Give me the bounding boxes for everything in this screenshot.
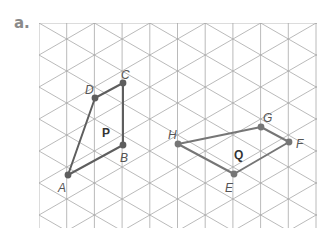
vertex-label-g: G xyxy=(263,111,272,125)
vertex-point-f xyxy=(286,139,293,146)
grid-diagonal-line xyxy=(39,22,317,183)
quadrilateral-q: EFGHQ xyxy=(168,111,304,195)
grid-diagonal-line xyxy=(39,214,317,228)
vertex-label-a: A xyxy=(57,181,66,195)
vertex-label-d: D xyxy=(85,83,94,97)
vertex-point-a xyxy=(65,172,72,179)
grid-diagonal-line xyxy=(39,0,317,151)
isometric-grid-canvas: ABCDPEFGHQ xyxy=(0,0,331,228)
vertex-label-b: B xyxy=(120,151,128,165)
grid-diagonal-line xyxy=(39,0,317,152)
grid-diagonal-line xyxy=(39,0,317,24)
vertex-label-e: E xyxy=(225,181,234,195)
grid-diagonal-line xyxy=(39,183,317,228)
isometric-diagram: a. ABCDPEFGHQ xyxy=(0,0,331,228)
grid-diagonal-line xyxy=(39,0,317,120)
grid-diagonal-line xyxy=(39,0,317,88)
grid-diagonal-line xyxy=(39,0,317,119)
grid-diagonal-line xyxy=(39,182,317,228)
vertex-label-f: F xyxy=(296,137,304,151)
shape-name-label: Q xyxy=(234,148,243,162)
grid-diagonal-line xyxy=(39,23,317,184)
grid-diagonal-line xyxy=(39,150,317,228)
vertex-label-c: C xyxy=(121,68,130,82)
vertex-point-b xyxy=(120,142,127,149)
shape-name-label: P xyxy=(102,126,110,140)
grid-diagonal-line xyxy=(39,0,317,87)
vertex-label-h: H xyxy=(168,128,177,142)
quadrilateral-p: ABCDP xyxy=(57,68,130,195)
grid-diagonal-line xyxy=(39,0,317,23)
grid-diagonal-line xyxy=(39,215,317,228)
vertex-point-e xyxy=(231,171,238,178)
grid-lines xyxy=(39,0,317,228)
grid-diagonal-line xyxy=(39,151,317,228)
